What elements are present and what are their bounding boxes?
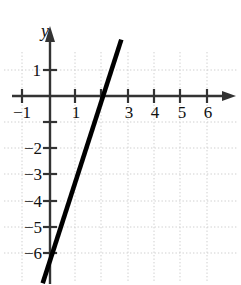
graph-figure: y −1 1 3 4 5 6 1 −2 −3 −4 −5 −6 [0,0,241,285]
y-tick-label-neg4: −4 [24,193,42,210]
y-tick-label-1: 1 [33,62,42,79]
x-tick-label-1: 1 [72,104,81,121]
x-tick-label-6: 6 [204,104,213,121]
y-axis-label: y [41,21,49,42]
y-tick-label-neg5: −5 [24,219,42,236]
x-tick-label-4: 4 [151,104,160,121]
x-tick-label-neg1: −1 [13,104,31,121]
y-tick-label-neg2: −2 [24,140,42,157]
plotted-line [43,40,122,284]
x-tick-label-5: 5 [178,104,187,121]
y-tick-label-neg3: −3 [24,166,42,183]
x-axis [12,91,236,101]
x-tick-label-3: 3 [125,104,134,121]
y-tick-label-neg6: −6 [24,245,42,262]
